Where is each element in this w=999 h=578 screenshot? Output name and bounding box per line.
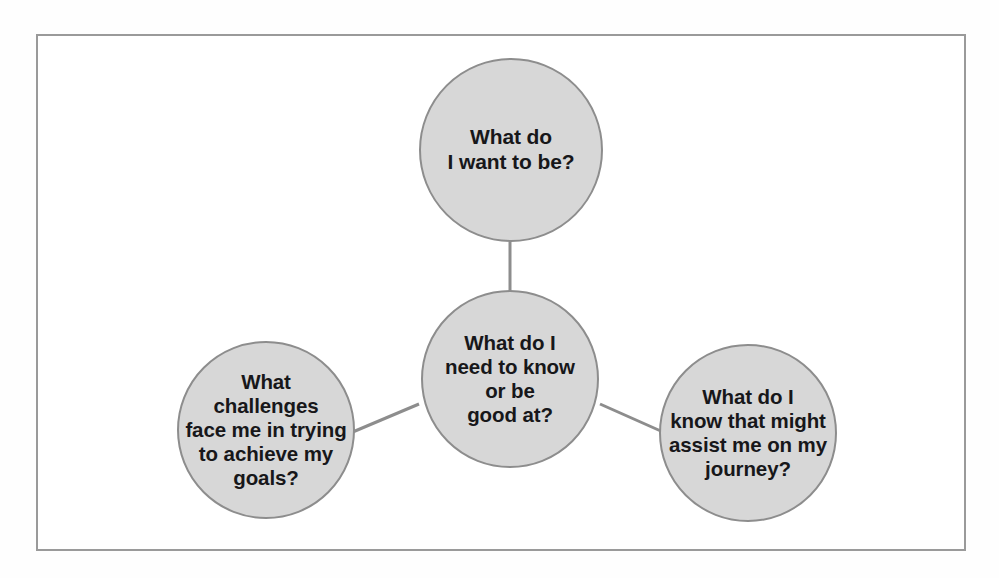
node-what-do-i-know-that-might-assist[interactable]: What do I know that might assist me on m… — [659, 344, 837, 522]
diagram-root: What do I want to be? What do I need to … — [0, 0, 999, 578]
node-what-do-i-need-to-know[interactable]: What do I need to know or be good at? — [421, 290, 599, 468]
node-what-challenges-face-me[interactable]: What challenges face me in trying to ach… — [177, 341, 355, 519]
node-right-label: What do I know that might assist me on m… — [663, 385, 833, 481]
node-center-label: What do I need to know or be good at? — [439, 331, 581, 427]
node-left-label: What challenges face me in trying to ach… — [179, 370, 352, 490]
node-what-do-i-want-to-be[interactable]: What do I want to be? — [419, 58, 603, 242]
node-top-label: What do I want to be? — [441, 125, 580, 174]
